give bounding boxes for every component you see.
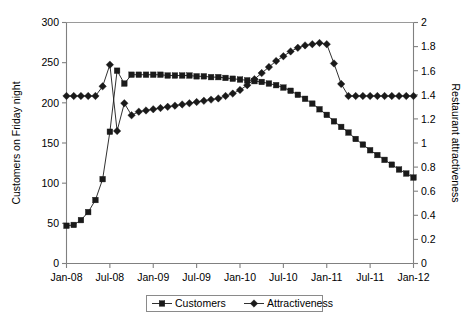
data-point-attractiveness [352, 92, 359, 99]
data-point-attractiveness [84, 92, 91, 99]
data-point-attractiveness [164, 103, 171, 110]
data-point-customers [223, 75, 229, 81]
data-point-customers [396, 167, 402, 173]
data-point-customers [309, 101, 315, 107]
y-axis-left-ticks: 050100150200250300 [41, 16, 66, 269]
data-point-customers [273, 82, 279, 88]
data-point-customers [382, 157, 388, 163]
data-point-attractiveness [207, 96, 214, 103]
data-point-attractiveness [128, 112, 135, 119]
data-point-customers [136, 72, 142, 78]
y2-tick-label: 0 [421, 257, 427, 269]
data-point-attractiveness [309, 40, 316, 47]
data-point-customers [64, 223, 70, 229]
data-point-attractiveness [157, 104, 164, 111]
right-axis-title: Restaurant attractiveness [450, 83, 462, 202]
y-tick-label: 150 [41, 137, 59, 149]
series-attractiveness [63, 39, 417, 134]
data-point-attractiveness [106, 61, 113, 68]
y2-tick-label: 1 [421, 137, 427, 149]
x-tick-label: Jul-11 [356, 271, 384, 283]
y-axis-right-ticks: 00.20.40.60.811.21.41.61.82 [414, 16, 436, 269]
data-point-customers [237, 77, 243, 83]
data-point-attractiveness [178, 101, 185, 108]
y-tick-label: 250 [41, 56, 59, 68]
data-point-customers [317, 106, 323, 112]
data-point-attractiveness [330, 60, 337, 67]
y2-tick-label: 1.4 [421, 89, 436, 101]
data-point-attractiveness [121, 99, 128, 106]
data-point-attractiveness [345, 92, 352, 99]
legend-label: Attractiveness [267, 297, 333, 309]
y2-tick-label: 1.2 [421, 113, 436, 125]
legend-label: Customers [175, 297, 226, 309]
data-point-customers [259, 79, 265, 85]
data-point-customers [295, 92, 301, 98]
y2-tick-label: 1.6 [421, 65, 436, 77]
data-point-customers [389, 162, 395, 168]
data-point-customers [122, 81, 128, 87]
data-point-customers [360, 142, 366, 148]
data-point-customers [302, 96, 308, 102]
data-point-customers [353, 136, 359, 142]
data-point-attractiveness [113, 127, 120, 134]
x-tick-label: Jan-11 [311, 271, 342, 283]
data-point-attractiveness [200, 97, 207, 104]
data-point-customers [129, 72, 135, 78]
data-point-attractiveness [294, 44, 301, 51]
data-point-customers [158, 72, 164, 78]
x-tick-label: Jan-12 [397, 271, 429, 283]
data-point-attractiveness [280, 52, 287, 59]
data-point-customers [201, 74, 207, 80]
data-point-customers [288, 88, 294, 94]
data-point-customers [375, 152, 381, 158]
data-point-attractiveness [236, 86, 243, 93]
data-point-customers [338, 124, 344, 130]
legend-square-marker-icon [159, 301, 165, 307]
data-point-customers [85, 209, 91, 215]
data-point-customers [172, 73, 178, 79]
data-point-customers [165, 73, 171, 79]
data-point-customers [230, 76, 236, 82]
data-point-customers [78, 217, 84, 223]
y-tick-label: 0 [53, 257, 59, 269]
data-point-customers [208, 74, 214, 80]
axis-titles: Customers on Friday nightRestaurant attr… [10, 81, 462, 204]
data-point-attractiveness [215, 95, 222, 102]
data-point-attractiveness [366, 92, 373, 99]
data-point-customers [403, 171, 409, 177]
data-point-attractiveness [135, 108, 142, 115]
data-point-customers [114, 68, 120, 74]
data-point-attractiveness [222, 92, 229, 99]
data-point-customers [150, 72, 156, 78]
data-point-customers [194, 74, 200, 80]
data-point-customers [367, 147, 373, 153]
data-point-attractiveness [381, 92, 388, 99]
data-point-attractiveness [150, 106, 157, 113]
data-point-customers [93, 197, 99, 203]
y2-tick-label: 0.4 [421, 209, 436, 221]
data-point-customers [107, 129, 113, 135]
data-point-customers [216, 74, 222, 80]
data-point-attractiveness [403, 92, 410, 99]
data-point-attractiveness [142, 107, 149, 114]
data-point-attractiveness [395, 92, 402, 99]
data-point-customers [143, 72, 149, 78]
data-point-customers [187, 73, 193, 79]
data-point-attractiveness [388, 92, 395, 99]
data-point-customers [100, 176, 106, 182]
chart-container: Jan-08Jul-08Jan-09Jul-09Jan-10Jul-10Jan-… [0, 0, 465, 333]
x-tick-label: Jul-10 [269, 271, 298, 283]
data-point-attractiveness [63, 92, 70, 99]
x-tick-label: Jan-08 [50, 271, 82, 283]
data-point-attractiveness [337, 80, 344, 87]
y2-tick-label: 1.8 [421, 40, 436, 52]
y-tick-label: 50 [47, 217, 59, 229]
data-point-attractiveness [359, 92, 366, 99]
y-tick-label: 300 [41, 16, 59, 28]
data-point-customers [179, 73, 185, 79]
dual-axis-line-chart: Jan-08Jul-08Jan-09Jul-09Jan-10Jul-10Jan-… [0, 0, 465, 333]
data-point-attractiveness [229, 90, 236, 97]
data-point-customers [346, 130, 352, 136]
x-tick-label: Jan-09 [137, 271, 169, 283]
